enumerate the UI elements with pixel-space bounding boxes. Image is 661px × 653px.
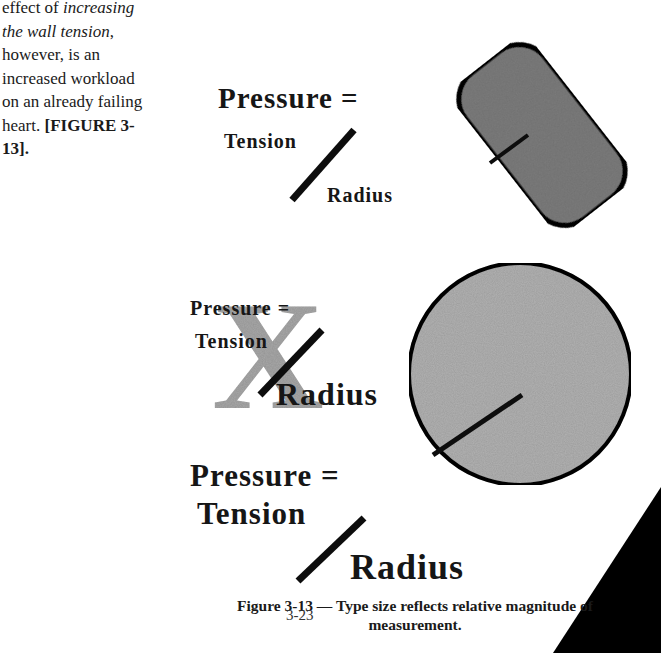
caption-line: measurement. [180, 615, 650, 634]
caption-line: Figure 3-13 — Type size reflects relativ… [180, 596, 650, 615]
pressure-label: Pressure = [190, 297, 290, 320]
pressure-label: Pressure = [190, 458, 340, 494]
svg-text:X: X [212, 270, 324, 442]
tension-label: Tension [195, 330, 268, 353]
tension-label: Tension [224, 130, 297, 153]
crossed-out-x-mark: X [212, 270, 324, 442]
spherical-chamber-shape [409, 263, 631, 485]
elongated-chamber-shape [446, 32, 638, 239]
figure-caption: Figure 3-13 — Type size reflects relativ… [180, 596, 650, 634]
tension-label: Tension [197, 496, 306, 532]
radius-label: Radius [350, 546, 464, 588]
radius-label: Radius [327, 184, 393, 207]
page-number: 3-23 [286, 607, 314, 624]
radius-label: Radius [276, 376, 378, 413]
pressure-label: Pressure = [218, 82, 359, 115]
